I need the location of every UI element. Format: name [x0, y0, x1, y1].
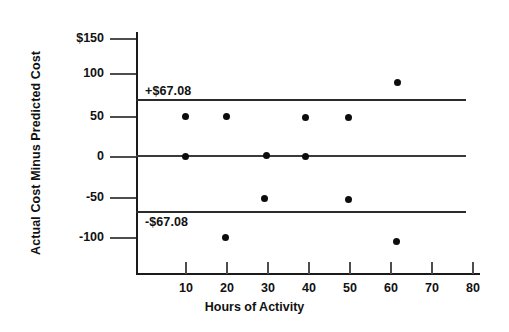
data-point — [394, 79, 401, 86]
x-tick-label-70: 70 — [415, 281, 449, 295]
data-point — [261, 195, 268, 202]
x-axis-title: Hours of Activity — [0, 300, 509, 314]
data-point — [345, 114, 352, 121]
x-tick-label-40: 40 — [292, 281, 326, 295]
data-point — [223, 113, 230, 120]
x-tick-label-10: 10 — [169, 281, 203, 295]
y-tick-label-150: $150 — [44, 31, 104, 45]
x-tick-label-30: 30 — [251, 281, 285, 295]
y-tick-mark-100 — [110, 73, 138, 75]
y-axis-title: Actual Cost Minus Predicted Cost — [29, 33, 43, 273]
data-point — [263, 152, 270, 159]
y-tick-mark-neg50 — [110, 197, 138, 199]
y-tick-label-neg50: -50 — [44, 190, 104, 204]
reference-line-lower-limit — [136, 211, 466, 213]
data-point — [222, 234, 229, 241]
x-tick-mark-40 — [308, 262, 310, 274]
y-tick-mark-neg100 — [110, 237, 138, 239]
data-point — [345, 196, 352, 203]
x-tick-mark-60 — [390, 262, 392, 274]
x-tick-mark-30 — [267, 262, 269, 274]
x-tick-mark-20 — [226, 262, 228, 274]
y-tick-mark-50 — [110, 116, 138, 118]
x-tick-mark-80 — [472, 262, 474, 274]
data-point — [302, 153, 309, 160]
y-tick-label-0: 0 — [44, 149, 104, 163]
x-tick-label-60: 60 — [374, 281, 408, 295]
reference-label-lower-limit: -$67.08 — [145, 215, 188, 229]
x-tick-label-20: 20 — [210, 281, 244, 295]
y-tick-label-100: 100 — [44, 66, 104, 80]
x-tick-mark-10 — [185, 262, 187, 274]
y-tick-label-50: 50 — [44, 109, 104, 123]
x-tick-mark-70 — [431, 262, 433, 274]
reference-label-upper-limit: +$67.08 — [145, 84, 191, 98]
data-point — [182, 113, 189, 120]
x-tick-label-80: 80 — [456, 281, 490, 295]
y-tick-mark-0 — [110, 156, 138, 158]
x-tick-mark-50 — [349, 262, 351, 274]
y-tick-label-neg100: -100 — [44, 230, 104, 244]
y-axis-line — [136, 32, 138, 275]
x-tick-label-50: 50 — [333, 281, 367, 295]
scatter-plot-figure: Actual Cost Minus Predicted Cost Hours o… — [0, 0, 509, 332]
y-tick-mark-150 — [110, 38, 138, 40]
data-point — [302, 114, 309, 121]
data-point — [393, 238, 400, 245]
reference-line-upper-limit — [136, 99, 466, 101]
data-point — [182, 153, 189, 160]
